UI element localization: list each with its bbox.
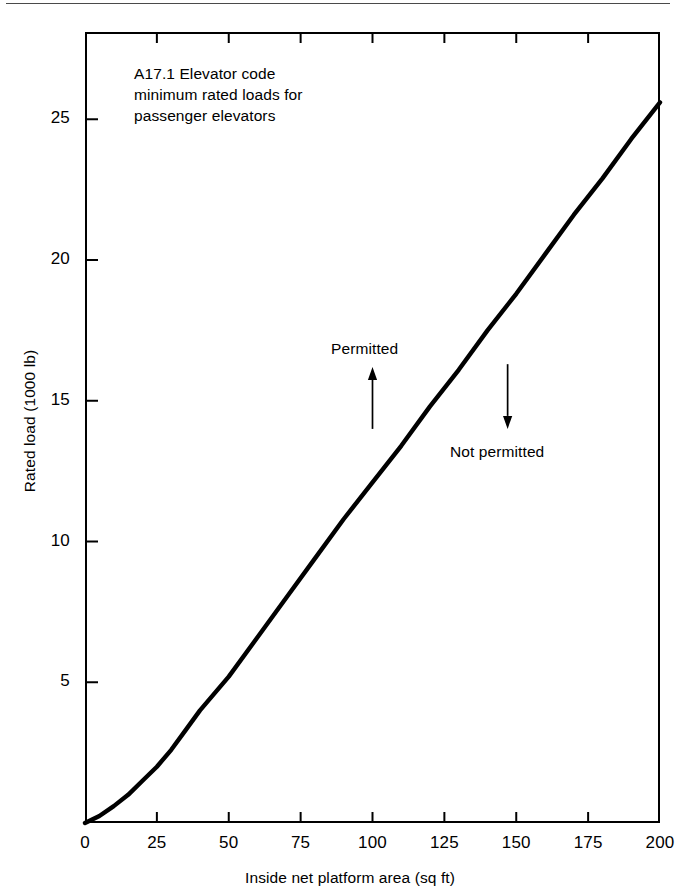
y-axis-title: Rated load (1000 lb) bbox=[21, 301, 39, 541]
x-tick-label: 0 bbox=[80, 833, 90, 853]
x-axis-tick-labels: 0255075100125150175200 bbox=[0, 0, 700, 896]
x-tick-label: 50 bbox=[219, 833, 238, 853]
x-tick-label: 25 bbox=[147, 833, 166, 853]
x-tick-label: 100 bbox=[358, 833, 387, 853]
chart-page: A17.1 Elevator code minimum rated loads … bbox=[0, 0, 700, 896]
x-axis-title: Inside net platform area (sq ft) bbox=[0, 869, 700, 887]
x-tick-label: 150 bbox=[502, 833, 531, 853]
x-tick-label: 200 bbox=[646, 833, 675, 853]
x-tick-label: 125 bbox=[430, 833, 459, 853]
x-tick-label: 175 bbox=[574, 833, 603, 853]
x-tick-label: 75 bbox=[291, 833, 310, 853]
